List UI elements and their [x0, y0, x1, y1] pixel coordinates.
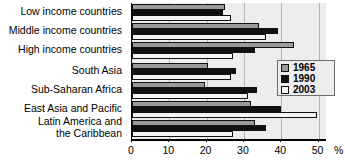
x-tick-0 [131, 139, 132, 142]
bar-group [132, 23, 326, 42]
category-label: Middle income countries [9, 25, 122, 37]
legend-item-2003: 2003 [281, 85, 331, 95]
bar-group [132, 42, 326, 61]
legend-swatch-2003 [281, 86, 289, 94]
x-tick-label-30: 30 [237, 144, 249, 156]
legend-swatch-1965 [281, 64, 289, 72]
legend-swatch-1990 [281, 75, 289, 83]
x-tick-20 [206, 139, 207, 142]
chart-legend: 1965 1990 2003 [277, 60, 335, 96]
bar-2003 [132, 131, 233, 137]
bar-2003 [132, 74, 231, 80]
x-axis-unit-label: % [334, 144, 343, 156]
x-tick-10 [168, 139, 169, 142]
legend-item-1990: 1990 [281, 74, 331, 84]
category-label: Sub-Saharan Africa [31, 84, 122, 96]
bar-chart: Low income countriesMiddle income countr… [0, 0, 345, 162]
bar-2003 [132, 53, 233, 59]
bar-group [132, 4, 326, 23]
x-tick-label-40: 40 [274, 144, 286, 156]
bar-2003 [132, 34, 266, 40]
x-tick-30 [243, 139, 244, 142]
category-label: High income countries [18, 44, 122, 56]
category-label: Low income countries [20, 6, 122, 18]
bar-2003 [132, 15, 231, 21]
legend-label-2003: 2003 [293, 85, 315, 95]
x-tick-label-20: 20 [200, 144, 212, 156]
bar-2003 [132, 112, 317, 118]
x-tick-40 [280, 139, 281, 142]
bar-group [132, 120, 326, 139]
bar-group [132, 101, 326, 120]
legend-item-1965: 1965 [281, 63, 331, 73]
x-tick-label-0: 0 [128, 144, 134, 156]
legend-label-1965: 1965 [293, 63, 315, 73]
x-tick-label-50: 50 [312, 144, 324, 156]
legend-label-1990: 1990 [293, 74, 315, 84]
category-label-column: Low income countriesMiddle income countr… [0, 3, 126, 139]
x-tick-label-10: 10 [162, 144, 174, 156]
category-label: East Asia and Pacific [24, 103, 122, 115]
category-label: Latin America and the Caribbean [38, 116, 122, 139]
category-label: South Asia [72, 65, 122, 77]
bar-2003 [132, 93, 248, 99]
x-axis-line [131, 139, 326, 141]
x-tick-50 [318, 139, 319, 142]
